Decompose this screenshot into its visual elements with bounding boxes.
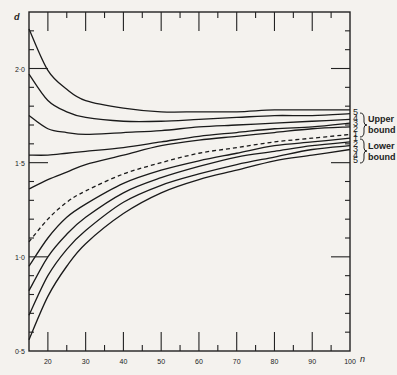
curve-lower-bound-5: [29, 149, 350, 339]
x-tick-label: 70: [233, 358, 241, 365]
curve-index-labels: 5432112345: [353, 107, 358, 165]
lower-bound-label-1: Lower: [368, 141, 395, 151]
curve-lower-bound-3: [29, 142, 350, 291]
x-tick-label: 30: [82, 358, 90, 365]
curve-upper-bound-5: [29, 29, 350, 112]
y-tick-label: 1·0: [15, 254, 25, 261]
x-tick-label: 40: [120, 358, 128, 365]
x-tick-label: 60: [195, 358, 203, 365]
plot-axes: [29, 12, 350, 351]
curve-upper-bound-1: [29, 127, 350, 189]
lower-bound-label-2: bound: [368, 152, 396, 162]
y-tick-label: 1·5: [15, 160, 25, 167]
curve-upper-bound-3: [29, 116, 350, 135]
axis-ticks: 20304050607080901000·51·01·52·0: [15, 12, 356, 365]
x-tick-label: 20: [44, 358, 52, 365]
x-tick-label: 80: [271, 358, 279, 365]
curve-lower-bound-4: [29, 146, 350, 316]
curves: [29, 29, 350, 340]
x-axis-label: n: [360, 354, 365, 364]
upper-brace: [360, 113, 367, 137]
y-tick-label: 0·5: [15, 348, 25, 355]
x-tick-label: 100: [344, 358, 356, 365]
y-axis-label: d: [14, 12, 20, 22]
x-tick-label: 90: [308, 358, 316, 365]
chart: 20304050607080901000·51·01·52·0 d n 5432…: [0, 0, 397, 375]
curve-index-label: 5: [353, 155, 358, 165]
plot-frame: [29, 12, 350, 351]
curve-lower-bound-2: [29, 138, 350, 266]
curve-lower-bound-1: [29, 134, 350, 241]
curve-upper-bound-4: [29, 74, 350, 121]
upper-bound-label-1: Upper: [368, 114, 395, 124]
upper-bound-label-2: bound: [368, 125, 396, 135]
x-tick-label: 50: [157, 358, 165, 365]
lower-brace: [360, 139, 367, 163]
y-tick-label: 2·0: [15, 66, 25, 73]
